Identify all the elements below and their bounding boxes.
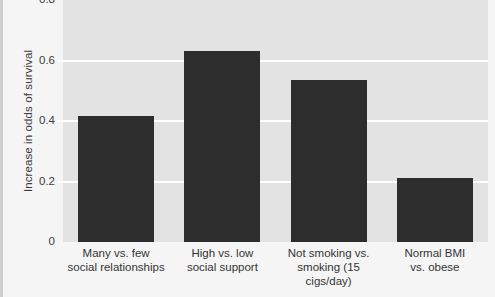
y-axis-tick-mark xyxy=(57,120,63,122)
y-axis-tick-mark xyxy=(57,181,63,183)
bar xyxy=(78,116,154,242)
x-axis-category-label: High vs. low social support xyxy=(169,246,275,274)
y-axis-tick-label: 0.2 xyxy=(39,176,55,188)
x-axis-category-label: Many vs. few social relationships xyxy=(63,246,169,274)
x-axis-category-label: Normal BMI vs. obese xyxy=(382,246,488,274)
y-axis-title: Increase in odds of survival xyxy=(17,0,39,242)
bar xyxy=(184,51,260,242)
x-axis-category-label: Not smoking vs. smoking (15 cigs/day) xyxy=(276,246,382,288)
y-axis-tick-label: 0.6 xyxy=(39,55,55,67)
bar-chart-figure: Increase in odds of survival 00.20.40.60… xyxy=(0,0,495,297)
bar xyxy=(291,80,367,242)
y-axis-tick-label: 0.8 xyxy=(39,0,55,6)
plot-area: 00.20.40.60.8 xyxy=(63,0,488,242)
bar xyxy=(397,178,473,242)
y-axis-tick-label: 0.4 xyxy=(39,115,55,127)
y-axis-tick-label: 0 xyxy=(49,236,55,248)
gridline xyxy=(63,60,488,62)
y-axis-tick-mark xyxy=(57,60,63,62)
